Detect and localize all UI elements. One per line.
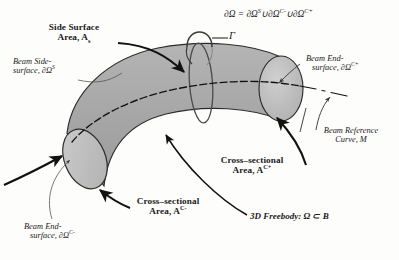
cross-sectional-area-minus-label: Cross–sectional Area, AC- [118, 196, 218, 217]
beam-reference-curve-label: Beam Reference Curve, M [306, 126, 396, 145]
beam-end-surface-minus-line2: surface, ∂ΩC- [24, 231, 75, 240]
leader-left-edge [4, 156, 62, 185]
beam-reference-curve-line1: Beam Reference [306, 126, 396, 135]
boundary-decomposition-equation: ∂Ω = ∂ΩS∪∂ΩC-∪∂ΩC+ [224, 9, 313, 20]
beam-reference-curve-line2: Curve, M [306, 135, 396, 144]
leader-beam-end-minus [49, 160, 70, 219]
beam-side-surface-line2: surface, ∂ΩS [13, 66, 55, 75]
beam-side-surface-line1: Beam Side- [13, 57, 55, 66]
leader-beam-end-plus [279, 64, 300, 83]
freebody-label: 3D Freebody: Ω ⊂ B [250, 211, 329, 221]
side-surface-area-line2: Area, As [28, 32, 120, 42]
cross-sectional-minus-line2: Area, AC- [118, 206, 218, 216]
cross-sectional-plus-line1: Cross–sectional [202, 155, 302, 165]
side-surface-area-label: Side Surface Area, As [28, 22, 120, 43]
figure-canvas: ∂Ω = ∂ΩS∪∂ΩC-∪∂ΩC+ Γ Side Surface Area, … [0, 0, 399, 260]
gamma-label: Γ [229, 30, 235, 42]
beam-end-surface-minus-label: Beam End- surface, ∂ΩC- [24, 222, 75, 241]
cross-sectional-plus-line2: Area, AC+ [202, 165, 302, 175]
beam-side-surface-label: Beam Side- surface, ∂ΩS [13, 57, 55, 76]
side-surface-area-line1: Side Surface [28, 22, 120, 32]
beam-end-surface-plus-line2: surface, ∂ΩC+ [306, 63, 359, 72]
beam-end-surface-minus-line1: Beam End- [24, 222, 75, 231]
leader-side-surface-area [118, 43, 184, 72]
leader-beam-side-surface [78, 73, 122, 82]
beam-end-surface-plus-label: Beam End- surface, ∂ΩC+ [306, 54, 359, 73]
cross-sectional-minus-line1: Cross–sectional [118, 196, 218, 206]
cross-sectional-area-plus-label: Cross–sectional Area, AC+ [202, 155, 302, 176]
